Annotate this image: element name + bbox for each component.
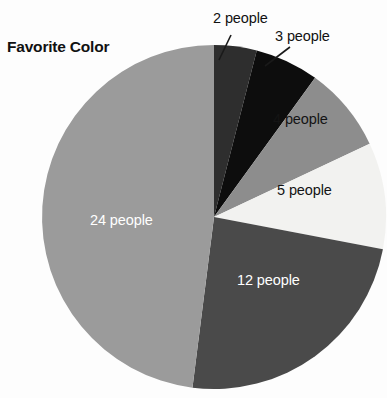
slice-label-2-people: 2 people — [213, 10, 268, 26]
slice-label-4-people: 4 people — [273, 111, 328, 127]
slice-label-3-people: 3 people — [275, 28, 330, 44]
slice-label-12-people: 12 people — [237, 272, 300, 288]
slice-label-24-people: 24 people — [90, 212, 153, 228]
pie-chart-page: Favorite Color 2 people 3 people 4 peopl… — [0, 0, 387, 398]
slice-label-5-people: 5 people — [277, 182, 332, 198]
pie-chart-graphic — [0, 0, 387, 398]
